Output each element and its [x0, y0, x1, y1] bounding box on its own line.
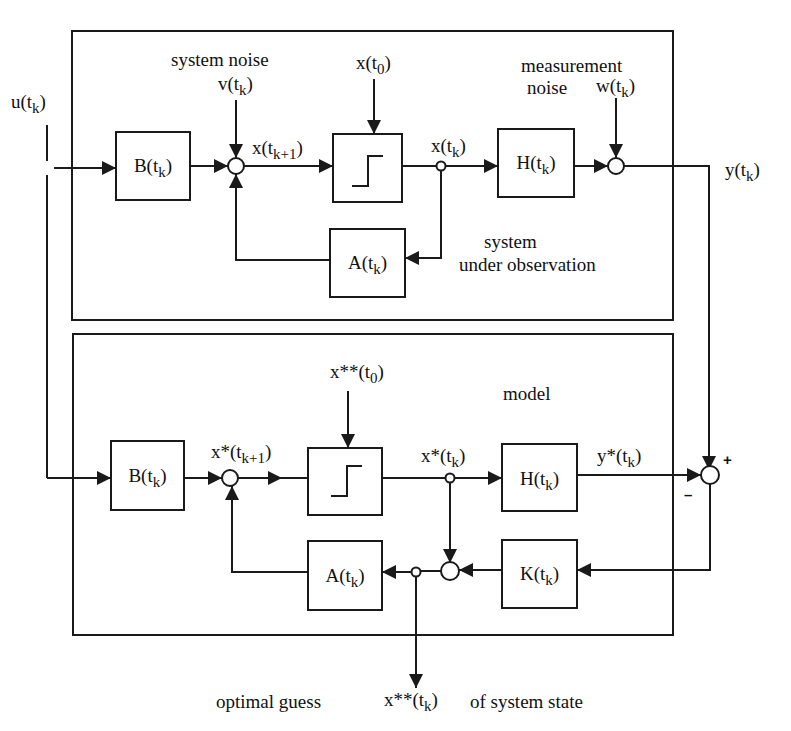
system-caption-2: under observation	[459, 255, 596, 274]
system-noise-label: v(tk)	[218, 74, 253, 93]
input-label: u(tk)	[11, 92, 46, 111]
model-state-label: x*(tk)	[421, 446, 465, 465]
system-a-label: A(tk)	[330, 253, 405, 272]
model-state-node	[446, 474, 455, 483]
initial-state-label: x(t0)	[356, 53, 391, 72]
next-state-label: x(tk+1)	[252, 138, 303, 157]
model-sum-junction	[222, 470, 238, 486]
model-b-label: B(tk)	[111, 466, 184, 485]
kalman-diagram	[0, 0, 791, 731]
system-caption-1: system	[484, 232, 537, 251]
plus-sign: +	[723, 452, 732, 467]
measurement-sum-junction	[608, 158, 624, 174]
system-h-label: H(tk)	[498, 153, 574, 172]
system-sum-junction	[228, 158, 244, 174]
state-label: x(tk)	[431, 136, 466, 155]
measurement-noise-label: w(tk)	[596, 76, 635, 95]
estimate-prefix: optimal guess	[216, 692, 321, 711]
estimate-suffix: of system state	[470, 692, 583, 711]
correction-sum-junction	[441, 562, 459, 580]
measurement-noise-caption-1: measurement	[521, 56, 622, 75]
model-initial-state-label: x**(t0)	[330, 362, 384, 381]
estimate-label: x**(tk)	[384, 690, 438, 709]
output-label: y(tk)	[725, 160, 760, 179]
error-sum-junction	[701, 466, 719, 484]
minus-sign: –	[684, 487, 692, 502]
model-delay-block	[308, 448, 382, 515]
model-h-label: H(tk)	[502, 469, 577, 488]
model-k-label: K(tk)	[502, 564, 577, 583]
measurement-noise-caption-2: noise	[527, 78, 567, 97]
model-a-label: A(tk)	[308, 566, 382, 585]
system-state-node	[437, 162, 446, 171]
model-caption: model	[503, 384, 551, 403]
system-noise-caption: system noise	[171, 50, 269, 69]
model-output-label: y*(tk)	[597, 446, 641, 465]
model-next-state-label: x*(tk+1)	[211, 442, 271, 461]
estimate-node	[412, 568, 421, 577]
system-b-label: B(tk)	[116, 156, 190, 175]
